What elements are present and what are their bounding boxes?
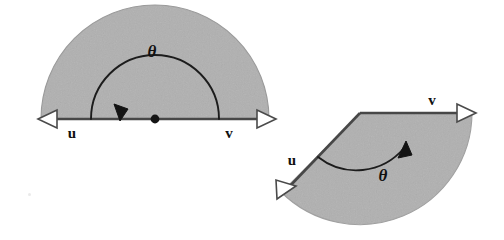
figure-canvas: θ u v θ u v xyxy=(0,0,504,240)
right-theta-label: θ xyxy=(379,166,388,185)
left-v-label: v xyxy=(225,125,233,141)
left-u-label: u xyxy=(68,125,76,141)
right-v-label: v xyxy=(428,92,436,108)
left-shaded-sector xyxy=(41,5,269,119)
right-diagram: θ u v xyxy=(276,92,476,225)
left-vertex-dot xyxy=(151,115,160,124)
vector-angle-figure: θ u v θ u v xyxy=(0,0,504,240)
left-diagram: θ u v xyxy=(38,5,276,141)
scan-speck xyxy=(28,193,31,196)
right-u-label: u xyxy=(288,152,296,168)
left-theta-label: θ xyxy=(148,42,157,61)
right-shaded-sector xyxy=(281,113,472,225)
